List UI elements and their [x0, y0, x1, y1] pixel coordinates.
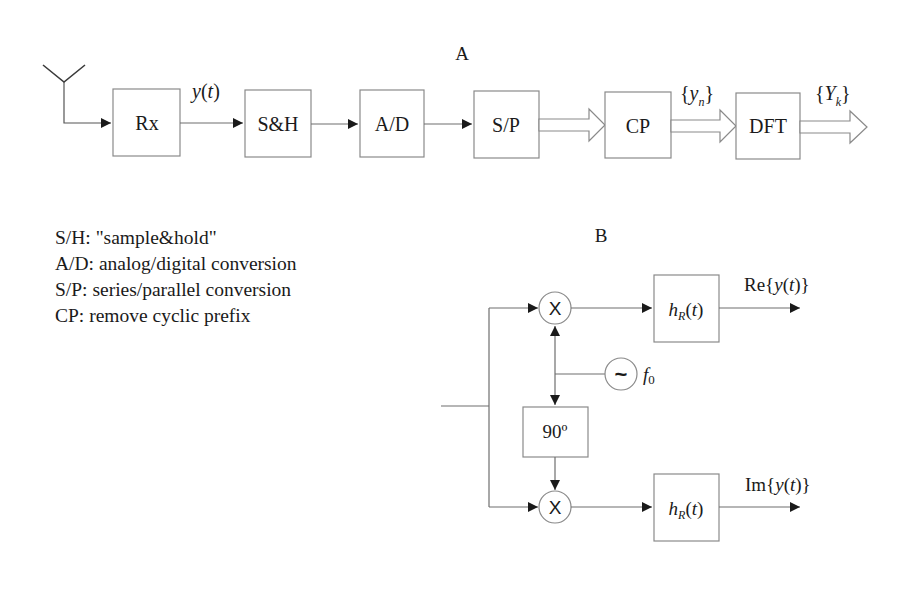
block-ad: A/D [360, 90, 424, 157]
parallel-arrow-sp-cp [539, 109, 605, 141]
phase-shift-label: 90º [543, 421, 568, 442]
mixer-bottom: X [539, 491, 571, 523]
output-im: Im{y(t)} [745, 474, 811, 496]
block-dft: DFT [736, 93, 800, 159]
legend-item: S/H: "sample&hold" [55, 225, 297, 251]
signal-yk: {Yk} [815, 82, 851, 109]
mixer-icon: X [549, 298, 562, 319]
filter-bottom-label: hR(t) [669, 498, 704, 522]
block-rx: Rx [113, 89, 180, 156]
diagram-a-title: A [455, 43, 469, 64]
signal-yt: y(t) [190, 80, 220, 103]
signal-yn: {yn} [680, 82, 714, 109]
diagram-b-title: B [595, 225, 608, 246]
block-ad-label: A/D [375, 113, 409, 135]
phase-shift-90: 90º [523, 407, 588, 457]
filter-top: hR(t) [654, 275, 719, 342]
block-cp: CP [605, 92, 671, 158]
parallel-arrow-dft-out [800, 111, 867, 143]
abbreviation-legend: S/H: "sample&hold" A/D: analog/digital c… [55, 225, 297, 329]
block-rx-label: Rx [135, 112, 158, 134]
mixer-top: X [539, 292, 571, 324]
output-re: Re{y(t)} [744, 274, 810, 296]
oscillator: ~ [605, 358, 637, 390]
mixer-icon: X [549, 497, 562, 518]
filter-bottom: hR(t) [654, 474, 719, 541]
block-sample-hold: S&H [245, 90, 311, 157]
block-sh-label: S&H [257, 113, 298, 135]
oscillator-icon: ~ [615, 362, 628, 387]
antenna-icon [43, 65, 111, 123]
legend-item: CP: remove cyclic prefix [55, 303, 297, 329]
legend-item: A/D: analog/digital conversion [55, 251, 297, 277]
block-cp-label: CP [626, 115, 650, 137]
legend-item: S/P: series/parallel conversion [55, 277, 297, 303]
block-sp-label: S/P [492, 114, 520, 136]
filter-top-label: hR(t) [669, 299, 704, 323]
parallel-arrow-cp-dft [671, 110, 736, 142]
block-dft-label: DFT [749, 115, 787, 137]
oscillator-freq: f0 [643, 364, 655, 387]
block-sp: S/P [474, 91, 539, 158]
